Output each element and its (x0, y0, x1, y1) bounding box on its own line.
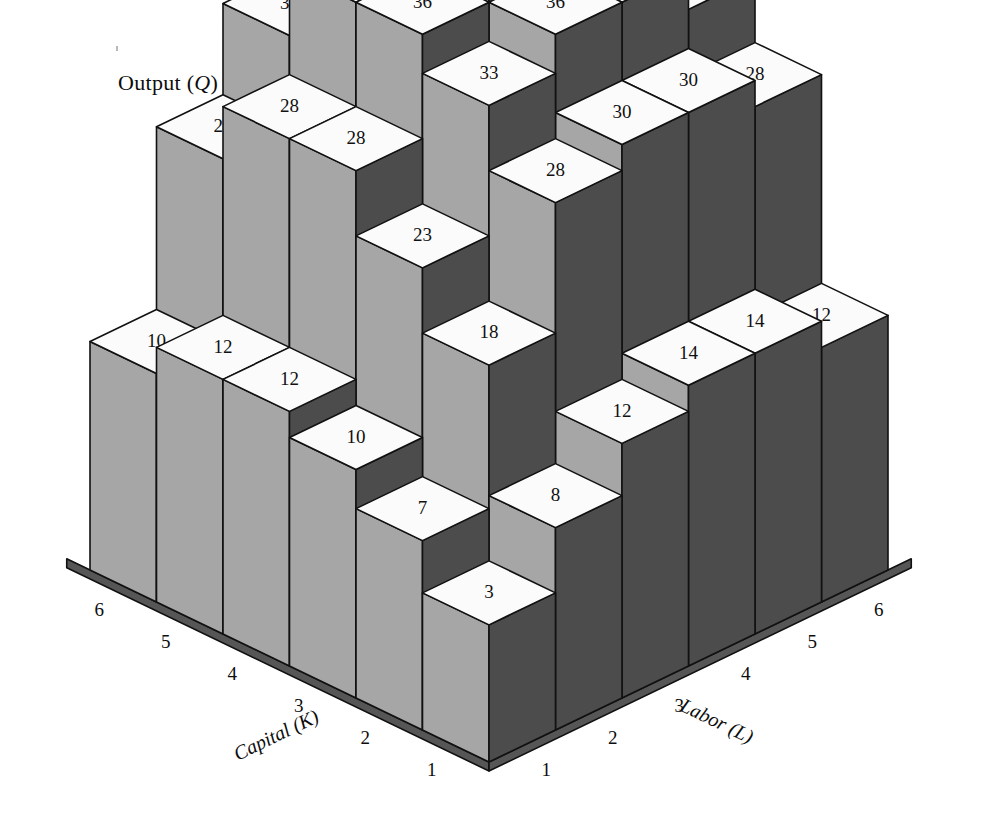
bar-value-label: 23 (413, 224, 432, 245)
bar-value-label: 3 (484, 581, 494, 602)
bar-left-face (356, 509, 423, 730)
capital-tick-5: 5 (161, 631, 171, 652)
bar-value-label: 28 (546, 159, 565, 180)
labor-tick-2: 2 (608, 727, 618, 748)
labor-tick-6: 6 (874, 599, 884, 620)
bar-left-face (290, 438, 357, 699)
bar-right-face (755, 321, 822, 634)
bar-value-label: 28 (280, 95, 299, 116)
labor-axis-title: Labor (L) (676, 693, 758, 748)
bar-right-face (622, 411, 689, 698)
bar-value-label: 30 (679, 69, 698, 90)
bar-cell[interactable]: 3 (423, 561, 556, 762)
labor-tick-1: 1 (542, 759, 552, 780)
bar-value-label: 12 (613, 400, 632, 421)
bar-value-label: 28 (347, 127, 366, 148)
capital-tick-4: 4 (228, 663, 238, 684)
bar-value-label: 12 (280, 368, 299, 389)
bar-left-face (90, 342, 157, 603)
bar-value-label: 10 (347, 426, 366, 447)
bar-right-face (556, 496, 623, 730)
capital-tick-6: 6 (95, 599, 105, 620)
figure-canvas: Output (Q) 39404036423633404031283640362… (0, 0, 983, 834)
bar-value-label: 18 (480, 321, 499, 342)
bar-left-face (223, 379, 290, 666)
bar-value-label: 12 (214, 336, 233, 357)
production-surface-3d: 3940403642363340403128364036241230363628… (0, 0, 983, 834)
capital-axis-title: Capital (K) (230, 705, 323, 766)
capital-tick-2: 2 (361, 727, 371, 748)
bar-value-label: 8 (551, 484, 561, 505)
bar-value-label: 7 (418, 497, 428, 518)
capital-tick-1: 1 (427, 759, 437, 780)
labor-tick-5: 5 (808, 631, 818, 652)
labor-tick-4: 4 (741, 663, 751, 684)
bar-right-face (689, 353, 756, 666)
bar-value-label: 33 (480, 62, 499, 83)
bar-value-label: 14 (746, 310, 766, 331)
bar-right-face (822, 315, 889, 602)
bar-value-label: 14 (679, 342, 699, 363)
bar-left-face (157, 347, 224, 634)
bar-group: 3940403642363340403128364036241230363628… (90, 0, 888, 762)
bar-value-label: 30 (613, 101, 632, 122)
bar-value-label: 36 (413, 0, 432, 12)
bar-value-label: 36 (546, 0, 565, 12)
